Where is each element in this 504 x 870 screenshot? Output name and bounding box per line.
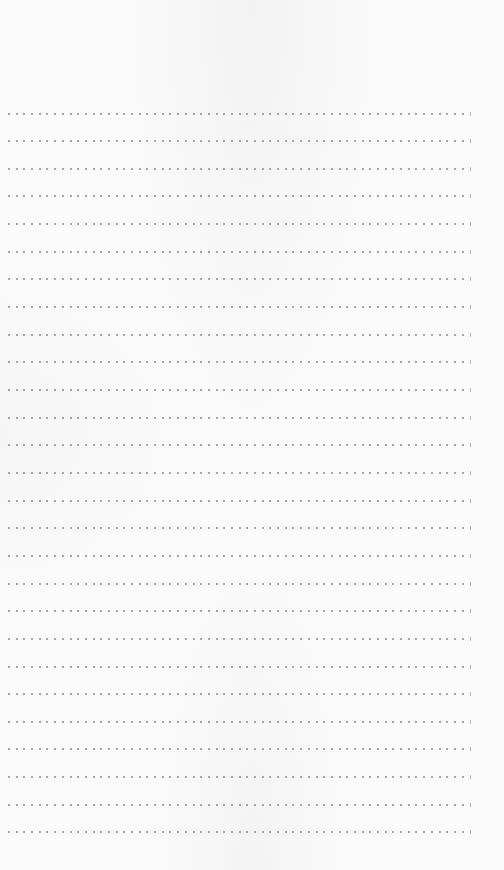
- line-dot: [415, 168, 417, 170]
- line-dot: [308, 583, 310, 585]
- line-dot: [169, 721, 171, 723]
- line-dot: [77, 472, 79, 474]
- line-dot: [431, 168, 433, 170]
- line-end-tick: [470, 471, 471, 475]
- line-dot: [16, 527, 18, 529]
- line-dot: [231, 223, 233, 225]
- line-dot: [162, 500, 164, 502]
- line-dot: [316, 748, 318, 750]
- line-dot: [346, 527, 348, 529]
- line-dot: [139, 500, 141, 502]
- line-dot: [85, 610, 87, 612]
- line-dot: [100, 223, 102, 225]
- line-dot: [193, 831, 195, 833]
- line-dot: [446, 776, 448, 778]
- line-dot: [177, 444, 179, 446]
- line-dot: [415, 444, 417, 446]
- line-dot: [377, 610, 379, 612]
- dotted-writing-line: [8, 167, 470, 170]
- line-dot: [146, 748, 148, 750]
- line-dot: [239, 113, 241, 115]
- line-dot: [216, 306, 218, 308]
- line-dot: [162, 831, 164, 833]
- line-dot: [208, 223, 210, 225]
- line-dot: [385, 195, 387, 197]
- line-dot: [446, 693, 448, 695]
- line-dot: [392, 748, 394, 750]
- dotted-writing-line: [8, 499, 470, 502]
- line-dot: [385, 583, 387, 585]
- line-dot: [8, 278, 10, 280]
- line-dot: [70, 361, 72, 363]
- line-dot: [239, 334, 241, 336]
- line-dot: [139, 610, 141, 612]
- line-dot: [8, 195, 10, 197]
- line-dot: [154, 527, 156, 529]
- line-dot: [262, 583, 264, 585]
- line-dot: [62, 500, 64, 502]
- line-dot: [85, 113, 87, 115]
- line-dot: [408, 831, 410, 833]
- line-dot: [346, 251, 348, 253]
- line-dot: [216, 334, 218, 336]
- line-dot: [323, 306, 325, 308]
- dotted-writing-line: [8, 361, 470, 364]
- line-dot: [308, 721, 310, 723]
- line-dot: [139, 555, 141, 557]
- line-dot: [77, 500, 79, 502]
- line-dot: [377, 389, 379, 391]
- line-dot: [116, 831, 118, 833]
- line-dot: [16, 831, 18, 833]
- line-dot: [162, 306, 164, 308]
- line-dot: [285, 583, 287, 585]
- line-dot: [100, 472, 102, 474]
- line-dot: [93, 223, 95, 225]
- line-dot: [146, 251, 148, 253]
- line-dot: [31, 804, 33, 806]
- line-dot: [446, 610, 448, 612]
- line-dot: [193, 472, 195, 474]
- line-dot: [339, 444, 341, 446]
- line-dot: [300, 693, 302, 695]
- line-dot: [262, 527, 264, 529]
- line-dot: [369, 721, 371, 723]
- line-dot: [408, 555, 410, 557]
- line-dot: [285, 223, 287, 225]
- line-dot: [439, 278, 441, 280]
- line-dot: [385, 306, 387, 308]
- line-dot: [23, 306, 25, 308]
- line-dot: [423, 693, 425, 695]
- line-dot: [308, 361, 310, 363]
- line-dot: [139, 444, 141, 446]
- line-dot: [146, 776, 148, 778]
- line-dot: [246, 417, 248, 419]
- line-dot: [54, 444, 56, 446]
- line-dot: [116, 140, 118, 142]
- line-dot: [292, 583, 294, 585]
- line-dot: [292, 113, 294, 115]
- line-dot: [93, 555, 95, 557]
- line-dot: [131, 389, 133, 391]
- line-dot: [269, 444, 271, 446]
- line-dot: [239, 666, 241, 668]
- line-dot: [131, 361, 133, 363]
- line-dot: [354, 444, 356, 446]
- line-dot: [254, 334, 256, 336]
- line-dot: [39, 610, 41, 612]
- line-dot: [8, 666, 10, 668]
- line-dot: [108, 389, 110, 391]
- line-dot: [31, 361, 33, 363]
- line-dot: [77, 334, 79, 336]
- line-dot: [439, 251, 441, 253]
- line-dot: [262, 195, 264, 197]
- line-dot: [308, 417, 310, 419]
- line-dot: [31, 278, 33, 280]
- line-dot: [193, 334, 195, 336]
- line-dot: [93, 389, 95, 391]
- line-dot: [269, 472, 271, 474]
- line-dot: [254, 195, 256, 197]
- line-dot: [331, 306, 333, 308]
- line-dot: [131, 638, 133, 640]
- line-dot: [177, 748, 179, 750]
- line-dot: [200, 721, 202, 723]
